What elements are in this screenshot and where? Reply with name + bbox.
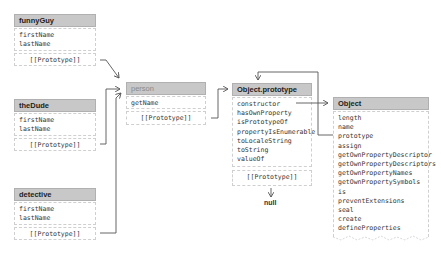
connector-lines — [0, 0, 441, 256]
arrow-detective-to-person — [100, 93, 121, 233]
arrow-prototype-to-objectprototype — [258, 72, 333, 135]
arrow-person-to-objectprototype — [211, 89, 228, 118]
arrow-funnyguy-to-person — [100, 60, 119, 78]
